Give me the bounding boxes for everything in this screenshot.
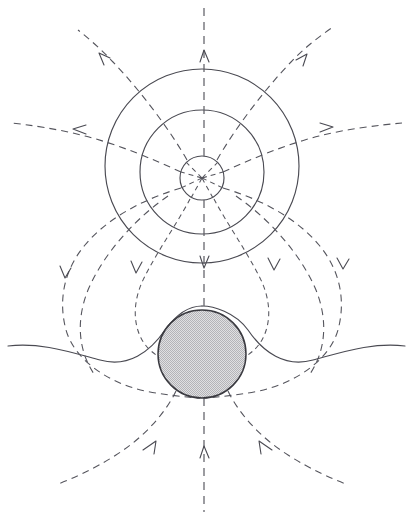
figure-root bbox=[0, 0, 413, 517]
figure-background bbox=[0, 0, 413, 517]
dipole-field-diagram bbox=[0, 0, 413, 517]
shaded-sphere bbox=[158, 310, 246, 398]
